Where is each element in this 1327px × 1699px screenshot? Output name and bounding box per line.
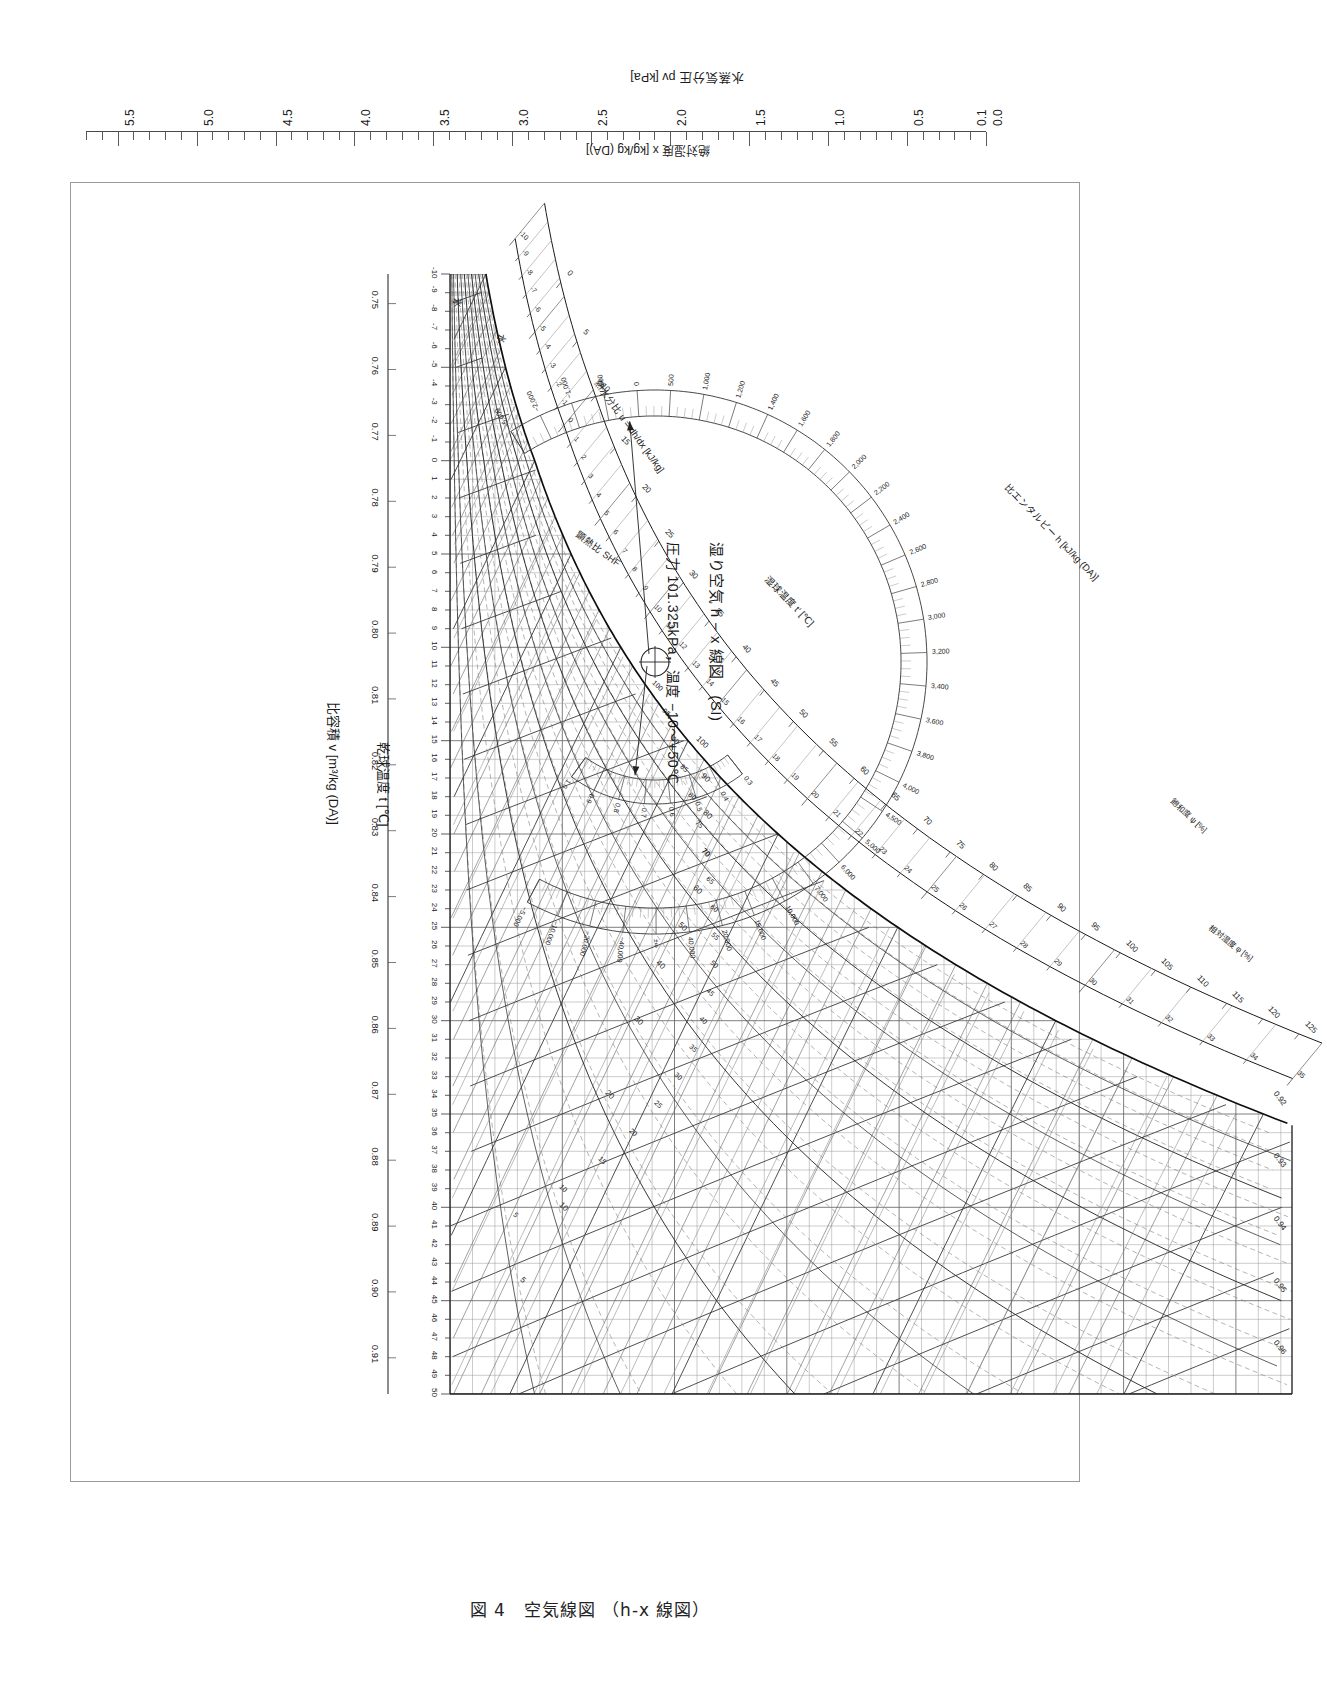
- dry-bulb-tick-label: -6: [430, 342, 438, 349]
- chart-title: 湿り空気 h − x 線図 (SI): [709, 542, 724, 721]
- vapor-pressure-tick: [654, 132, 655, 140]
- dry-bulb-tick-label: 10: [430, 641, 438, 650]
- figure-caption: 図 4 空気線図 （h-x 線図）: [0, 1596, 1180, 1621]
- dry-bulb-tick-label: -9: [430, 286, 438, 293]
- dry-bulb-tick-label: -1: [430, 435, 438, 442]
- dry-bulb-tick-label: 45: [430, 1295, 438, 1304]
- dry-bulb-tick-label: 8: [430, 607, 438, 611]
- chart-graphics: [360, 182, 1327, 1482]
- specific-volume-tick-label: 0.75: [371, 291, 381, 310]
- dry-bulb-axis-title: 乾球温度 t [℃]: [377, 742, 390, 827]
- dry-bulb-tick-label: 41: [430, 1220, 438, 1229]
- dry-bulb-tick-label: 34: [430, 1089, 438, 1098]
- vapor-pressure-tick: [449, 132, 450, 140]
- vapor-pressure-tick: [418, 132, 419, 140]
- psychrometric-chart: -10-9-8-7-6-5-4-3-2-10123456789101112131…: [360, 182, 1327, 1482]
- dry-bulb-tick-label: -2: [430, 416, 438, 423]
- dry-bulb-tick-label: 28: [430, 977, 438, 986]
- specific-volume-tick-label: 0.81: [371, 686, 381, 705]
- vapor-pressure-tick: [102, 132, 103, 140]
- vapor-pressure-tick: [433, 132, 434, 146]
- dry-bulb-tick-label: 36: [430, 1127, 438, 1136]
- vapor-pressure-tick-label: 0.0: [991, 109, 1005, 126]
- dry-bulb-tick-label: -5: [430, 360, 438, 367]
- vapor-pressure-tick: [907, 132, 908, 146]
- vapor-pressure-tick: [370, 132, 371, 140]
- dry-bulb-tick-label: 49: [430, 1369, 438, 1378]
- dry-bulb-tick-label: 32: [430, 1052, 438, 1061]
- dry-bulb-tick-label: 46: [430, 1313, 438, 1322]
- specific-volume-tick-label: 0.84: [371, 884, 381, 903]
- specific-volume-tick-label: 0.89: [371, 1213, 381, 1232]
- vapor-pressure-tick-label: 0.1: [975, 109, 989, 126]
- vapor-pressure-tick-label: 5.5: [123, 109, 137, 126]
- vapor-pressure-tick: [528, 132, 529, 140]
- dry-bulb-tick-label: 42: [430, 1239, 438, 1248]
- heat-moisture-ratio-tick-label: 3,200: [932, 648, 950, 656]
- chart-subtitle: 圧力 101.325kPa，温度 −10〜+50℃: [666, 542, 680, 784]
- dry-bulb-tick-label: 2: [430, 495, 438, 499]
- dry-bulb-tick-label: 31: [430, 1033, 438, 1042]
- vapor-pressure-tick: [244, 132, 245, 140]
- dry-bulb-tick-label: 3: [430, 514, 438, 518]
- dry-bulb-tick-label: 25: [430, 921, 438, 930]
- vapor-pressure-tick: [860, 132, 861, 140]
- vapor-pressure-tick: [118, 132, 119, 146]
- heat-moisture-ratio-tick-label: ±∞: [653, 939, 660, 948]
- vapor-pressure-tick: [844, 132, 845, 140]
- vapor-pressure-tick: [307, 132, 308, 140]
- dry-bulb-tick-label: 9: [430, 626, 438, 630]
- vapor-pressure-tick: [276, 132, 277, 146]
- vapor-pressure-tick: [954, 132, 955, 140]
- dry-bulb-tick-label: 39: [430, 1183, 438, 1192]
- dry-bulb-tick-label: 24: [430, 903, 438, 912]
- dry-bulb-tick-label: 11: [430, 660, 438, 668]
- dry-bulb-tick-label: 6: [430, 570, 438, 574]
- dry-bulb-tick-label: 12: [430, 679, 438, 688]
- dry-bulb-tick-label: 27: [430, 959, 438, 968]
- heat-moisture-ratio-tick-label: 500: [667, 374, 675, 386]
- ice-label: 氷: [453, 298, 463, 308]
- vapor-pressure-axis-title: 水蒸気分圧 pv [kPa]: [630, 69, 744, 88]
- vapor-pressure-tick: [291, 132, 292, 140]
- vapor-pressure-tick: [639, 132, 640, 140]
- vapor-pressure-tick: [181, 132, 182, 140]
- dry-bulb-tick-label: 15: [430, 735, 438, 744]
- vapor-pressure-tick: [733, 132, 734, 140]
- vapor-pressure-tick: [354, 132, 355, 146]
- vapor-pressure-tick: [749, 132, 750, 146]
- vapor-pressure-tick-label: 3.5: [438, 109, 452, 126]
- vapor-pressure-axis-line: [86, 131, 986, 132]
- vapor-pressure-tick: [481, 132, 482, 140]
- specific-volume-axis-title: 比容積 v [m³/kg (DA)]: [327, 702, 340, 825]
- dry-bulb-tick-label: 38: [430, 1164, 438, 1173]
- vapor-pressure-tick: [781, 132, 782, 140]
- vapor-pressure-tick: [465, 132, 466, 140]
- dry-bulb-tick-label: 4: [430, 532, 438, 536]
- vapor-pressure-tick: [623, 132, 624, 140]
- heat-moisture-ratio-tick-label: 0: [633, 381, 640, 385]
- vapor-pressure-tick-label: 0.5: [912, 109, 926, 126]
- dry-bulb-tick-label: 14: [430, 716, 438, 725]
- dry-bulb-tick-label: 26: [430, 940, 438, 949]
- specific-volume-tick-label: 0.76: [371, 357, 381, 376]
- vapor-pressure-tick: [260, 132, 261, 140]
- specific-volume-tick-label: 0.88: [371, 1147, 381, 1166]
- dry-bulb-tick-label: 35: [430, 1108, 438, 1117]
- specific-volume-tick-label: 0.87: [371, 1081, 381, 1100]
- vapor-pressure-tick: [544, 132, 545, 140]
- vapor-pressure-tick: [497, 132, 498, 140]
- dry-bulb-tick-label: 48: [430, 1351, 438, 1360]
- dry-bulb-tick-label: 18: [430, 791, 438, 800]
- water-label: 水: [497, 334, 507, 344]
- vapor-pressure-tick: [339, 132, 340, 140]
- shf-tick-label: 0.7: [640, 807, 648, 817]
- vapor-pressure-tick: [686, 132, 687, 140]
- vapor-pressure-tick: [86, 132, 87, 140]
- vapor-pressure-tick: [923, 132, 924, 140]
- vapor-pressure-tick: [812, 132, 813, 140]
- psychrometric-chart-stage: -10-9-8-7-6-5-4-3-2-10123456789101112131…: [360, 182, 1327, 1482]
- vapor-pressure-tick-label: 2.0: [675, 109, 689, 126]
- specific-volume-tick-label: 0.80: [371, 620, 381, 639]
- dry-bulb-tick-label: 23: [430, 884, 438, 893]
